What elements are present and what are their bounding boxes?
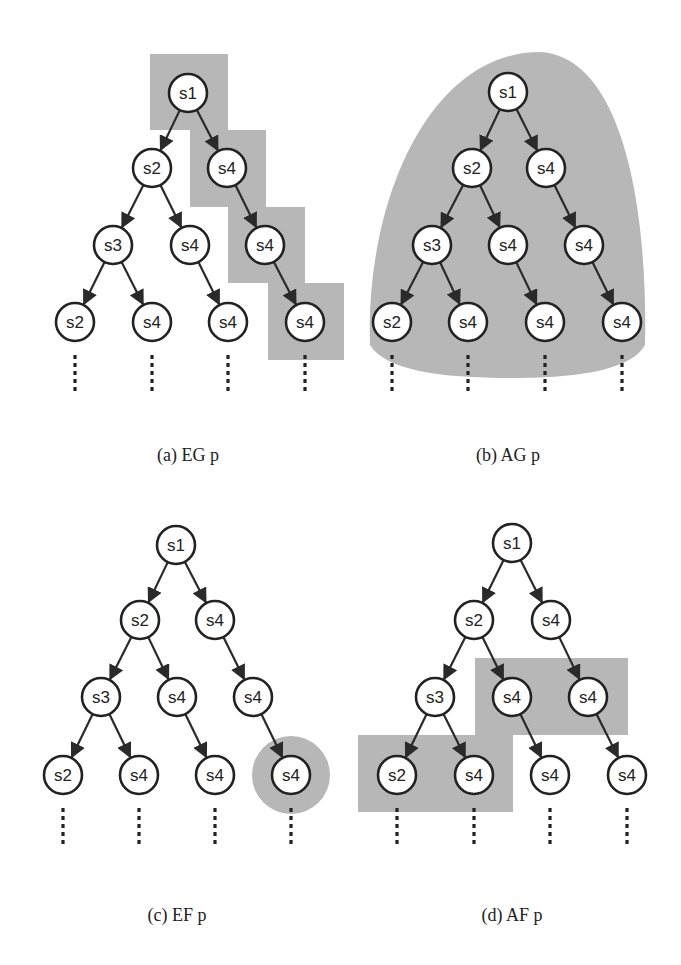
svg-text:s4: s4 bbox=[618, 766, 636, 785]
transition-arrow bbox=[109, 714, 130, 757]
svg-text:s2: s2 bbox=[383, 313, 401, 332]
state-node-s3: s3 bbox=[82, 678, 120, 716]
state-node-s4: s4 bbox=[208, 149, 246, 187]
state-node-s4: s4 bbox=[158, 678, 196, 716]
state-node-s3: s3 bbox=[413, 226, 451, 264]
transition-arrow bbox=[223, 637, 244, 679]
svg-text:s4: s4 bbox=[130, 766, 148, 785]
svg-text:s2: s2 bbox=[131, 611, 149, 630]
caption-panel-d: (d) AF p bbox=[412, 905, 612, 926]
state-node-s4: s4 bbox=[569, 678, 607, 716]
svg-text:s1: s1 bbox=[179, 84, 197, 103]
svg-text:s4: s4 bbox=[256, 236, 274, 255]
svg-text:s3: s3 bbox=[92, 688, 110, 707]
svg-text:s2: s2 bbox=[465, 611, 483, 630]
svg-text:s4: s4 bbox=[613, 313, 631, 332]
svg-text:s2: s2 bbox=[143, 159, 161, 178]
state-node-s4: s4 bbox=[449, 303, 487, 341]
state-node-s1: s1 bbox=[493, 524, 531, 562]
transition-arrow bbox=[198, 262, 219, 304]
svg-text:s3: s3 bbox=[104, 236, 122, 255]
svg-text:s2: s2 bbox=[66, 313, 84, 332]
ctl-tree-diagram: s1s2s4s3s4s4s2s4s4s4s1s2s4s3s4s4s2s4s4s4… bbox=[0, 0, 681, 965]
svg-text:s4: s4 bbox=[296, 313, 314, 332]
state-node-s3: s3 bbox=[94, 226, 132, 264]
state-node-s4: s4 bbox=[209, 303, 247, 341]
svg-text:s4: s4 bbox=[181, 236, 199, 255]
caption-panel-a: (a) EG p bbox=[88, 445, 288, 466]
svg-text:s4: s4 bbox=[542, 611, 560, 630]
svg-text:s1: s1 bbox=[499, 83, 517, 102]
state-node-s2: s2 bbox=[455, 601, 493, 639]
svg-text:s4: s4 bbox=[206, 766, 224, 785]
state-node-s4: s4 bbox=[246, 226, 284, 264]
state-node-s1: s1 bbox=[169, 74, 207, 112]
state-node-s4: s4 bbox=[234, 678, 272, 716]
state-node-s2: s2 bbox=[378, 756, 416, 794]
svg-text:s4: s4 bbox=[244, 688, 262, 707]
svg-text:s4: s4 bbox=[219, 313, 237, 332]
state-node-s4: s4 bbox=[133, 303, 171, 341]
state-node-s4: s4 bbox=[171, 226, 209, 264]
svg-text:s4: s4 bbox=[168, 688, 186, 707]
svg-text:s1: s1 bbox=[167, 536, 185, 555]
svg-text:s4: s4 bbox=[503, 688, 521, 707]
state-node-s1: s1 bbox=[489, 73, 527, 111]
svg-text:s4: s4 bbox=[541, 766, 559, 785]
state-node-s2: s2 bbox=[373, 303, 411, 341]
state-node-s4: s4 bbox=[531, 756, 569, 794]
svg-text:s1: s1 bbox=[503, 534, 521, 553]
svg-text:s4: s4 bbox=[536, 313, 554, 332]
svg-text:s4: s4 bbox=[537, 159, 555, 178]
state-node-s4: s4 bbox=[196, 756, 234, 794]
transition-arrow bbox=[149, 562, 168, 602]
state-node-s4: s4 bbox=[286, 303, 324, 341]
transition-arrow bbox=[185, 562, 206, 602]
svg-text:s4: s4 bbox=[465, 766, 483, 785]
state-node-s2: s2 bbox=[121, 601, 159, 639]
transition-arrow bbox=[160, 185, 181, 227]
state-node-s4: s4 bbox=[120, 756, 158, 794]
state-node-s4: s4 bbox=[272, 756, 310, 794]
transition-arrow bbox=[521, 560, 542, 602]
state-node-s4: s4 bbox=[608, 756, 646, 794]
svg-text:s2: s2 bbox=[388, 766, 406, 785]
svg-text:s4: s4 bbox=[459, 313, 477, 332]
transition-arrow bbox=[122, 262, 143, 304]
state-node-s4: s4 bbox=[196, 601, 234, 639]
figure-canvas: s1s2s4s3s4s4s2s4s4s4s1s2s4s3s4s4s2s4s4s4… bbox=[0, 0, 681, 965]
transition-arrow bbox=[84, 262, 105, 304]
transition-arrow bbox=[110, 637, 131, 679]
svg-text:s4: s4 bbox=[218, 159, 236, 178]
caption-panel-c: (c) EF p bbox=[77, 905, 277, 926]
state-node-s4: s4 bbox=[527, 149, 565, 187]
state-node-s1: s1 bbox=[157, 526, 195, 564]
svg-text:s2: s2 bbox=[54, 766, 72, 785]
transition-arrow bbox=[185, 714, 206, 757]
svg-text:s4: s4 bbox=[282, 766, 300, 785]
state-node-s2: s2 bbox=[453, 149, 491, 187]
state-node-s4: s4 bbox=[493, 678, 531, 716]
svg-text:s3: s3 bbox=[423, 236, 441, 255]
svg-text:s4: s4 bbox=[499, 236, 517, 255]
svg-text:s2: s2 bbox=[463, 159, 481, 178]
transition-arrow bbox=[148, 637, 168, 679]
transition-arrow bbox=[483, 560, 504, 602]
transition-arrow bbox=[122, 185, 143, 227]
state-node-s4: s4 bbox=[565, 226, 603, 264]
transition-arrow bbox=[72, 714, 93, 757]
svg-text:s4: s4 bbox=[143, 313, 161, 332]
state-node-s4: s4 bbox=[532, 601, 570, 639]
transition-arrow bbox=[444, 637, 465, 679]
svg-text:s4: s4 bbox=[206, 611, 224, 630]
svg-text:s4: s4 bbox=[575, 236, 593, 255]
svg-text:s3: s3 bbox=[426, 688, 444, 707]
state-node-s4: s4 bbox=[526, 303, 564, 341]
state-node-s4: s4 bbox=[455, 756, 493, 794]
state-node-s3: s3 bbox=[416, 678, 454, 716]
state-node-s4: s4 bbox=[603, 303, 641, 341]
state-node-s2: s2 bbox=[56, 303, 94, 341]
state-node-s2: s2 bbox=[133, 149, 171, 187]
caption-panel-b: (b) AG p bbox=[408, 445, 608, 466]
state-node-s4: s4 bbox=[489, 226, 527, 264]
